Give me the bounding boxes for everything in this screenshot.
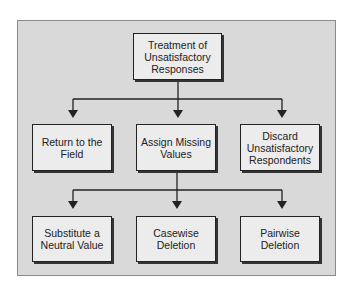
arrow-head-icon — [277, 110, 287, 118]
node-casewise-deletion: Casewise Deletion — [136, 216, 216, 262]
node-label: Treatment of Unsatisfactory Responses — [144, 39, 211, 75]
node-return-to-the-field: Return to the Field — [32, 124, 112, 171]
node-treatment-of-unsatisfactory-responses: Treatment of Unsatisfactory Responses — [133, 33, 222, 80]
node-label: Pairwise Deletion — [260, 227, 300, 251]
node-discard-unsatisfactory-respondents: Discard Unsatisfactory Respondents — [240, 124, 320, 171]
node-substitute-a-neutral-value: Substitute a Neutral Value — [32, 216, 112, 262]
node-label: Discard Unsatisfactory Respondents — [247, 130, 314, 166]
node-label: Assign Missing Values — [141, 136, 211, 160]
node-label: Substitute a Neutral Value — [41, 227, 104, 251]
arrow-head-icon — [172, 201, 182, 209]
arrow-head-icon — [173, 110, 183, 118]
node-label: Casewise Deletion — [153, 227, 199, 251]
node-assign-missing-values: Assign Missing Values — [136, 124, 216, 171]
arrow-head-icon — [68, 110, 78, 118]
node-label: Return to the Field — [42, 136, 103, 160]
arrow-head-icon — [68, 201, 78, 209]
arrow-head-icon — [277, 201, 287, 209]
node-pairwise-deletion: Pairwise Deletion — [240, 216, 320, 262]
